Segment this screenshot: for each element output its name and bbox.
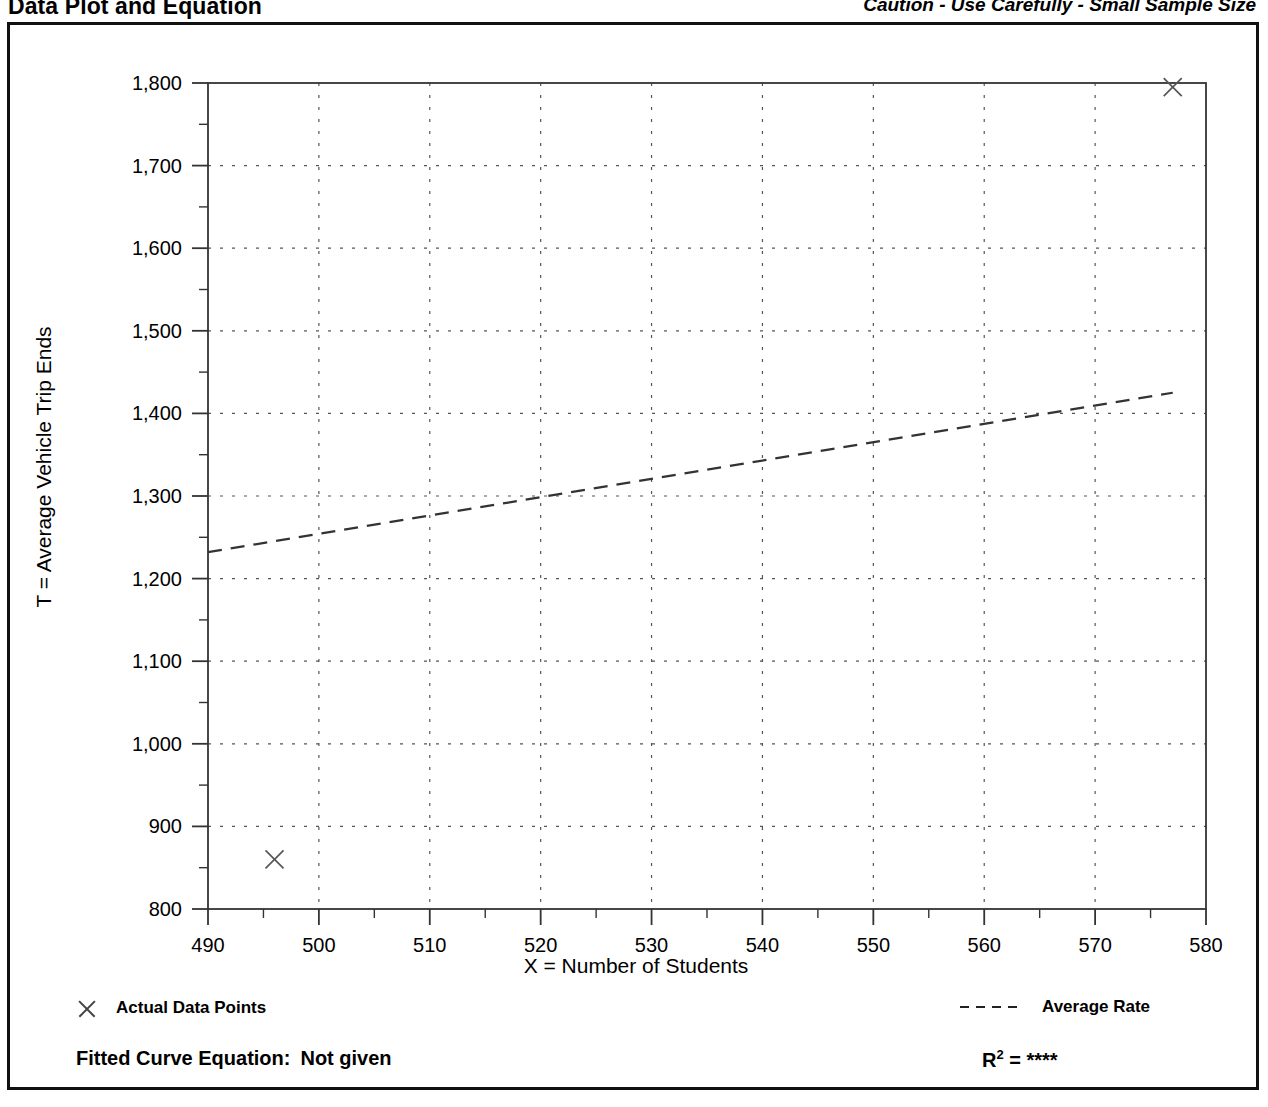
y-axis-tick-label: 1,100 (132, 650, 182, 672)
x-axis-title: X = Number of Students (10, 954, 1262, 978)
header-band: Data Plot and Equation Caution - Use Car… (0, 0, 1268, 19)
y-axis-title: T = Average Vehicle Trip Ends (32, 237, 56, 697)
y-axis-tick-label: 1,700 (132, 155, 182, 177)
scatter-plot-svg: 8009001,0001,1001,2001,3001,4001,5001,60… (10, 25, 1262, 955)
y-axis-tick-label: 1,300 (132, 485, 182, 507)
trend-line-average-rate (208, 393, 1173, 552)
legend-item-average-rate: Average Rate (960, 997, 1150, 1017)
x-marker-icon (76, 997, 98, 1019)
r-squared-value: R2 = **** (982, 1047, 1058, 1072)
x-axis-tick-label: 510 (413, 934, 446, 955)
plot-border (208, 83, 1206, 909)
x-axis-tick-label: 560 (968, 934, 1001, 955)
legend-item-actual-data-points: Actual Data Points (76, 997, 266, 1019)
page-title: Data Plot and Equation (8, 0, 262, 19)
x-axis-tick-label: 520 (524, 934, 557, 955)
x-axis-tick-label: 550 (857, 934, 890, 955)
chart-legend: Actual Data Points Average Rate (10, 997, 1262, 1037)
y-axis-tick-label: 1,800 (132, 72, 182, 94)
legend-label-actual-data-points: Actual Data Points (116, 998, 266, 1018)
x-axis-tick-label: 570 (1078, 934, 1111, 955)
chart-footer: Fitted Curve Equation:Not given R2 = ***… (10, 1047, 1262, 1091)
x-axis-tick-label: 530 (635, 934, 668, 955)
chart-area: 8009001,0001,1001,2001,3001,4001,5001,60… (10, 25, 1262, 1093)
data-point-marker (266, 850, 284, 868)
x-axis-tick-label: 540 (746, 934, 779, 955)
fitted-curve-equation: Fitted Curve Equation:Not given (76, 1047, 392, 1070)
dashed-line-icon (960, 1006, 1024, 1008)
fitted-curve-equation-value: Not given (300, 1047, 391, 1069)
chart-frame: 8009001,0001,1001,2001,3001,4001,5001,60… (7, 22, 1259, 1090)
x-axis-tick-label: 580 (1189, 934, 1222, 955)
y-axis-tick-label: 1,000 (132, 733, 182, 755)
y-axis-tick-label: 1,400 (132, 402, 182, 424)
y-axis-tick-label: 1,500 (132, 320, 182, 342)
fitted-curve-equation-label: Fitted Curve Equation: (76, 1047, 290, 1069)
r-squared-number: **** (1027, 1049, 1058, 1071)
x-axis-tick-label: 500 (302, 934, 335, 955)
data-point-marker (1164, 78, 1182, 96)
caution-note: Caution - Use Carefully - Small Sample S… (863, 0, 1256, 16)
y-axis-tick-label: 800 (149, 898, 182, 920)
r-squared-equals: = (1009, 1049, 1021, 1071)
y-axis-tick-label: 900 (149, 815, 182, 837)
r-squared-exponent: 2 (996, 1047, 1003, 1062)
r-squared-symbol: R (982, 1049, 996, 1071)
y-axis-tick-label: 1,600 (132, 237, 182, 259)
y-axis-tick-label: 1,200 (132, 568, 182, 590)
legend-label-average-rate: Average Rate (1042, 997, 1150, 1017)
x-axis-tick-label: 490 (191, 934, 224, 955)
